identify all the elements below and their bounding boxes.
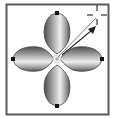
anchor-right[interactable]: [100, 57, 104, 61]
anchor-top[interactable]: [55, 11, 59, 15]
anchor-left[interactable]: [11, 57, 15, 61]
illustration-canvas: [0, 0, 113, 119]
anchor-bottom[interactable]: [55, 104, 59, 108]
flower-transform-icon: [0, 0, 113, 119]
